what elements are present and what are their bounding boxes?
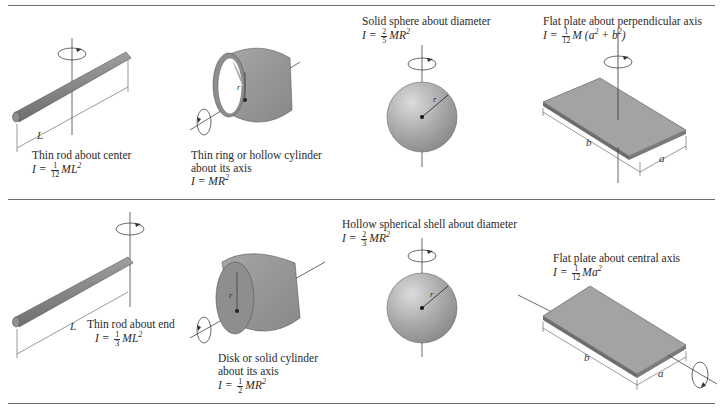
svg-text:a: a <box>659 152 665 164</box>
thin-rod-center-figure: L <box>13 38 132 152</box>
solid-cylinder-caption: Disk or solid cylinder about its axis I … <box>218 352 318 395</box>
thin-rod-center-caption: Thin rod about center I = 112ML2 <box>32 149 131 179</box>
hollow-sphere-figure: r <box>387 238 457 357</box>
svg-text:r: r <box>237 82 241 92</box>
rotation-arrow-icon <box>692 362 708 388</box>
solid-sphere-figure: r <box>387 45 457 167</box>
svg-text:b: b <box>586 136 592 148</box>
length-label: L <box>36 129 43 141</box>
svg-text:b: b <box>584 351 590 363</box>
moment-of-inertia-diagram: L r r b a <box>0 0 723 412</box>
thin-ring-caption: Thin ring or hollow cylinder about its a… <box>191 149 322 188</box>
svg-text:a: a <box>658 367 664 379</box>
svg-text:r: r <box>430 289 434 299</box>
hollow-sphere-caption: Hollow spherical shell about diameter I … <box>342 218 517 248</box>
svg-text:r: r <box>433 94 437 104</box>
flat-plate-central-caption: Flat plate about central axis I = 112Ma2 <box>553 252 680 282</box>
rotation-arrow-icon <box>197 109 211 135</box>
solid-sphere-caption: Solid sphere about diameter I = 25MR2 <box>362 15 491 45</box>
length-label: L <box>69 320 76 332</box>
flat-plate-perpendicular-caption: Flat plate about perpendicular axis I = … <box>543 15 702 45</box>
thin-ring-figure: r <box>190 48 300 135</box>
thin-rod-end-caption: Thin rod about end I = 13ML2 <box>87 318 175 348</box>
solid-cylinder-figure: r <box>190 254 325 343</box>
flat-plate-perpendicular-figure: b a <box>543 28 686 183</box>
svg-text:r: r <box>229 290 233 300</box>
flat-plate-central-figure: b a <box>518 286 717 390</box>
